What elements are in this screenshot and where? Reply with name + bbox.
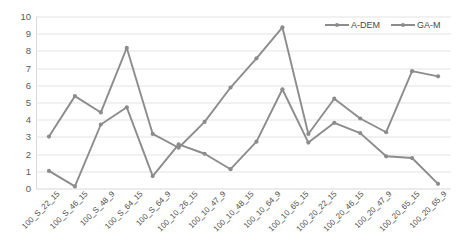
series-line-a-dem [49,27,438,147]
data-point [125,46,129,50]
y-tick-label: 2 [26,149,31,159]
data-point [228,85,232,89]
line-chart: 012345678910 100_S_22_15100_S_46_15100_S… [0,0,459,249]
data-point [47,134,51,138]
data-point [280,25,284,29]
plot-area: 012345678910 [36,17,451,189]
data-point [436,182,440,186]
y-tick-label: 6 [26,81,31,91]
data-point [99,122,103,126]
data-point [202,152,206,156]
y-tick-label: 0 [26,184,31,194]
data-point [436,74,440,78]
series-line-ga-m [49,89,438,186]
data-point [358,131,362,135]
data-point [254,140,258,144]
legend-item-a-dem[interactable]: A-DEM [325,20,380,30]
y-tick-label: 10 [20,12,31,22]
legend-item-ga-m[interactable]: GA-M [391,20,441,30]
data-point [306,140,310,144]
data-point [306,132,310,136]
data-point [254,56,258,60]
data-point [125,105,129,109]
y-tick-label: 7 [26,63,31,73]
data-point [358,116,362,120]
legend-line-marker-icon [325,24,349,26]
legend-line-marker-icon [391,24,415,26]
data-point [202,120,206,124]
data-point [410,156,414,160]
legend-label: A-DEM [351,20,380,30]
chart-legend: A-DEMGA-M [325,20,441,30]
x-axis-labels: 100_S_22_15100_S_46_15100_S_48_9100_S_64… [36,190,451,249]
data-point [151,174,155,178]
data-point [332,121,336,125]
y-tick-label: 1 [26,167,31,177]
y-tick-label: 9 [26,29,31,39]
data-point [280,87,284,91]
data-point [332,97,336,101]
legend-label: GA-M [417,20,441,30]
data-point [228,167,232,171]
data-point [384,154,388,158]
y-tick-label: 5 [26,98,31,108]
data-point [99,110,103,114]
data-point [47,169,51,173]
y-tick-label: 8 [26,46,31,56]
data-point [177,142,181,146]
series-lines [36,17,451,189]
y-tick-label: 4 [26,115,31,125]
data-point [410,69,414,73]
y-tick-label: 3 [26,132,31,142]
data-point [151,132,155,136]
data-point [73,184,77,188]
data-point [73,94,77,98]
data-point [384,130,388,134]
